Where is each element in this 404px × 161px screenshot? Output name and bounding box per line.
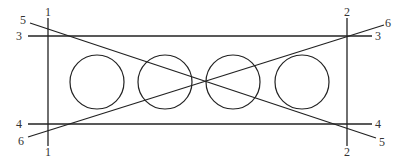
- line-label-5: 5: [379, 135, 385, 149]
- line-label-2: 2: [344, 5, 350, 19]
- line-label-6: 6: [18, 134, 24, 148]
- line-label-3: 3: [375, 29, 381, 43]
- line-diagram: 112233445566: [0, 0, 404, 161]
- line-label-1: 1: [45, 5, 51, 19]
- line-label-1: 1: [45, 145, 51, 159]
- line-label-6: 6: [385, 16, 391, 30]
- circle-1: [70, 55, 124, 109]
- line-label-4: 4: [375, 117, 381, 131]
- circles-group: [70, 55, 329, 109]
- line-label-3: 3: [16, 29, 22, 43]
- circle-3: [206, 55, 260, 109]
- circle-2: [138, 55, 192, 109]
- line-label-2: 2: [344, 145, 350, 159]
- line-label-5: 5: [20, 13, 26, 27]
- circle-4: [275, 55, 329, 109]
- line-5-diagonal: [30, 23, 376, 138]
- line-label-4: 4: [16, 117, 22, 131]
